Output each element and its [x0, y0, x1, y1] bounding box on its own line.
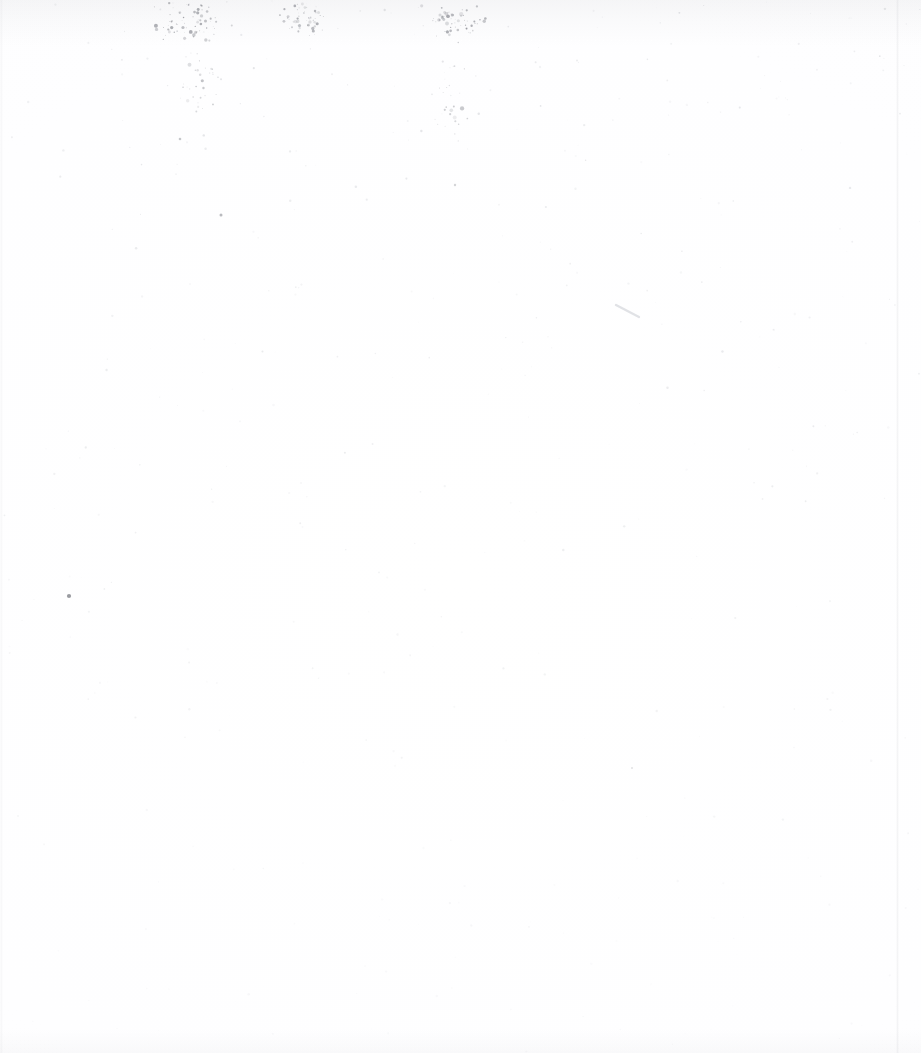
scanned-page: Blank page — [0, 0, 921, 1053]
paper-surface — [0, 0, 921, 1053]
